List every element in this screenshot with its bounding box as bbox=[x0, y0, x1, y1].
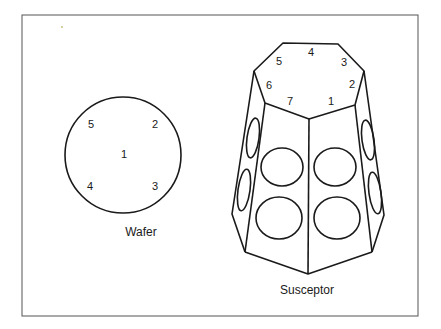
susceptor-caption: Susceptor bbox=[280, 283, 334, 297]
wafer-position-4: 4 bbox=[87, 180, 93, 192]
facet-label-3: 3 bbox=[341, 56, 347, 68]
figure-frame bbox=[22, 15, 418, 316]
wafer-position-1: 1 bbox=[121, 148, 127, 160]
susceptor: 1 2 3 4 5 6 7 Susceptor bbox=[232, 43, 384, 297]
wafer-position-3: 3 bbox=[152, 180, 158, 192]
wafer-pocket bbox=[261, 148, 303, 186]
facet-label-5: 5 bbox=[276, 55, 282, 67]
wafer-pocket bbox=[314, 197, 360, 239]
susceptor-right-outer-edge bbox=[364, 71, 384, 252]
susceptor-center-edge bbox=[308, 119, 309, 274]
facet-label-1: 1 bbox=[328, 95, 334, 107]
facet-label-7: 7 bbox=[287, 95, 293, 107]
susceptor-left-outer-edge bbox=[232, 71, 254, 252]
wafer-pocket-side bbox=[366, 171, 384, 214]
susceptor-left-inner-edge bbox=[245, 103, 265, 252]
facet-label-2: 2 bbox=[349, 78, 355, 90]
wafer: 1 2 3 4 5 Wafer bbox=[65, 97, 181, 239]
wafer-position-5: 5 bbox=[88, 118, 94, 130]
wafer-pocket-side bbox=[359, 119, 376, 160]
wafer-pocket bbox=[256, 197, 302, 239]
speck bbox=[61, 26, 63, 28]
wafer-pocket bbox=[314, 148, 356, 186]
diagram-canvas: 1 2 3 4 5 Wafer 1 2 3 4 5 bbox=[0, 0, 441, 329]
facet-label-6: 6 bbox=[266, 79, 272, 91]
facet-label-4: 4 bbox=[308, 46, 314, 58]
wafer-caption: Wafer bbox=[125, 225, 157, 239]
wafer-position-2: 2 bbox=[152, 118, 158, 130]
